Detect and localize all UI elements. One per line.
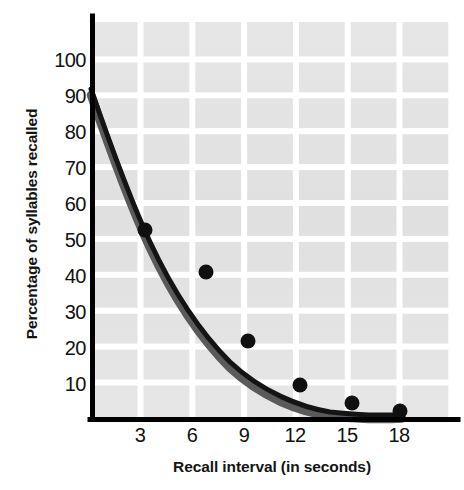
x-axis-title: Recall interval (in seconds)	[88, 458, 456, 476]
x-tick-18: 18	[379, 424, 419, 446]
y-tick-20: 20	[40, 338, 86, 358]
x-tick-6: 6	[172, 424, 212, 446]
x-tick-3: 3	[120, 424, 160, 446]
y-tick-10: 10	[40, 374, 86, 394]
y-axis-title: Percentage of syllables recalled	[23, 74, 41, 374]
x-tick-15: 15	[327, 424, 367, 446]
y-tick-60: 60	[40, 194, 86, 214]
forgetting-curve-figure: 100 90 80 70 60 50 40 30 20 10 3 6 9 12 …	[0, 0, 464, 490]
data-point	[393, 404, 408, 419]
y-tick-100: 100	[40, 50, 86, 70]
y-tick-70: 70	[40, 158, 86, 178]
data-point	[138, 223, 153, 238]
data-point	[293, 378, 308, 393]
x-tick-12: 12	[275, 424, 315, 446]
data-point	[345, 396, 360, 411]
y-tick-90: 90	[40, 86, 86, 106]
x-tick-9: 9	[224, 424, 264, 446]
y-axis-tick-labels: 100 90 80 70 60 50 40 30 20 10	[36, 0, 86, 490]
y-tick-50: 50	[40, 230, 86, 250]
data-point	[241, 334, 256, 349]
y-tick-40: 40	[40, 266, 86, 286]
y-tick-30: 30	[40, 302, 86, 322]
y-tick-80: 80	[40, 122, 86, 142]
data-point	[199, 265, 214, 280]
